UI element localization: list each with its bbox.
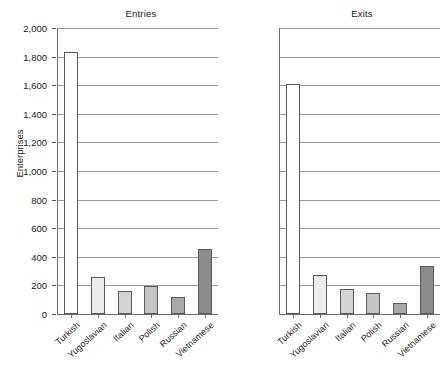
y-axis-tick-mark — [52, 200, 56, 201]
x-axis-tick-mark — [125, 314, 126, 318]
y-axis-tick-mark — [52, 257, 56, 258]
y-axis-tick-label: 0 — [3, 309, 47, 320]
y-axis-tick-label: 1,800 — [3, 51, 47, 62]
y-axis-tick-label: 1,400 — [3, 108, 47, 119]
y-axis-tick-mark — [52, 228, 56, 229]
x-axis-tick-mark — [320, 314, 321, 318]
x-axis-tick-mark — [373, 314, 374, 318]
x-axis-tick-mark — [178, 314, 179, 318]
y-axis-tick-mark — [52, 285, 56, 286]
y-axis-tick-mark — [52, 85, 56, 86]
y-axis-tick-mark — [52, 171, 56, 172]
x-axis-tick-mark — [427, 314, 428, 318]
x-axis-tick-mark — [347, 314, 348, 318]
x-axis-labels-entries: TurkishYugoslavianItalianPolishRussianVi… — [58, 28, 218, 314]
y-axis-tick-label: 600 — [3, 223, 47, 234]
x-axis-tick-mark — [293, 314, 294, 318]
y-axis-tick-mark — [52, 142, 56, 143]
y-axis-tick-label: 1,200 — [3, 137, 47, 148]
y-axis-tick-labels: 02004006008001,0001,2001,4001,6001,8002,… — [0, 0, 47, 384]
x-axis-tick-mark — [98, 314, 99, 318]
plot-area-exits: TurkishYugoslavianItalianPolishRussianVi… — [279, 28, 440, 315]
panel-title-exits: Exits — [282, 8, 442, 19]
x-axis-label: Italian — [333, 320, 358, 344]
y-axis-tick-label: 200 — [3, 280, 47, 291]
y-axis-tick-label: 1,600 — [3, 80, 47, 91]
y-axis-tick-mark — [52, 114, 56, 115]
x-axis-tick-mark — [205, 314, 206, 318]
x-axis-tick-mark — [151, 314, 152, 318]
y-axis-tick-mark — [52, 28, 56, 29]
plot-area-entries: TurkishYugoslavianItalianPolishRussianVi… — [57, 28, 218, 315]
y-axis-tick-label: 400 — [3, 251, 47, 262]
panel-title-entries: Entries — [60, 8, 222, 19]
x-axis-label: Italian — [111, 320, 136, 344]
y-axis-tick-label: 800 — [3, 194, 47, 205]
y-axis-tick-label: 2,000 — [3, 23, 47, 34]
y-axis-tick-label: 1,000 — [3, 166, 47, 177]
x-axis-labels-exits: TurkishYugoslavianItalianPolishRussianVi… — [280, 28, 440, 314]
y-axis-tick-mark — [52, 57, 56, 58]
x-axis-tick-mark — [71, 314, 72, 318]
bar-chart-figure: Entries Exits Enterprises 02004006008001… — [0, 0, 446, 384]
y-axis-tick-mark — [52, 314, 56, 315]
x-axis-tick-mark — [400, 314, 401, 318]
